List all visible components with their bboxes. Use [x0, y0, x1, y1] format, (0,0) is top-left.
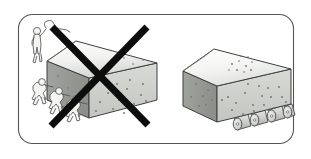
- overseer-right-leg: [39, 54, 42, 62]
- illustration-canvas: [0, 0, 311, 159]
- illustration-root: Two-panel comparison illustration: left …: [0, 0, 311, 159]
- overseer-head: [33, 27, 40, 34]
